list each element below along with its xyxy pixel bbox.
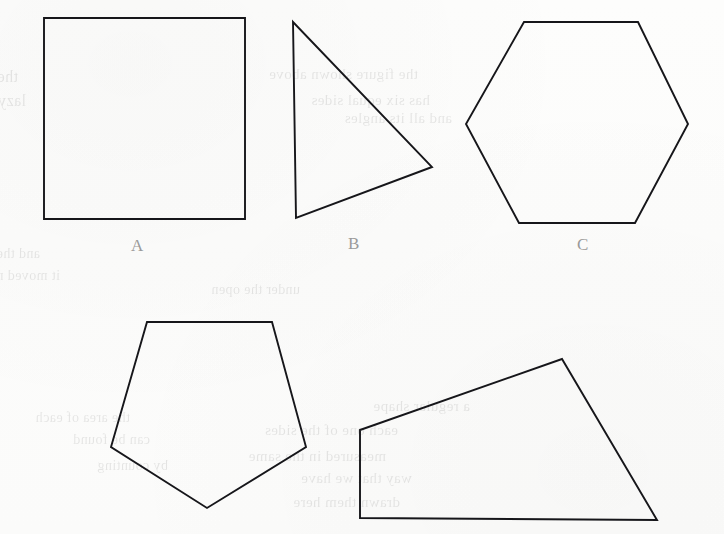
shape-quadrilateral — [360, 359, 657, 520]
shape-label-c: C — [577, 236, 588, 253]
shape-layer — [0, 0, 724, 534]
shapes-canvas — [0, 0, 724, 534]
shape-pentagon — [111, 322, 306, 508]
shape-label-b: B — [348, 235, 359, 252]
shape-hexagon — [466, 22, 688, 223]
shape-label-a: A — [131, 237, 143, 254]
shape-triangle — [293, 22, 432, 218]
figure-page: the brown fox jumps overlazy dog and wal… — [0, 0, 724, 534]
shape-square — [44, 18, 245, 219]
